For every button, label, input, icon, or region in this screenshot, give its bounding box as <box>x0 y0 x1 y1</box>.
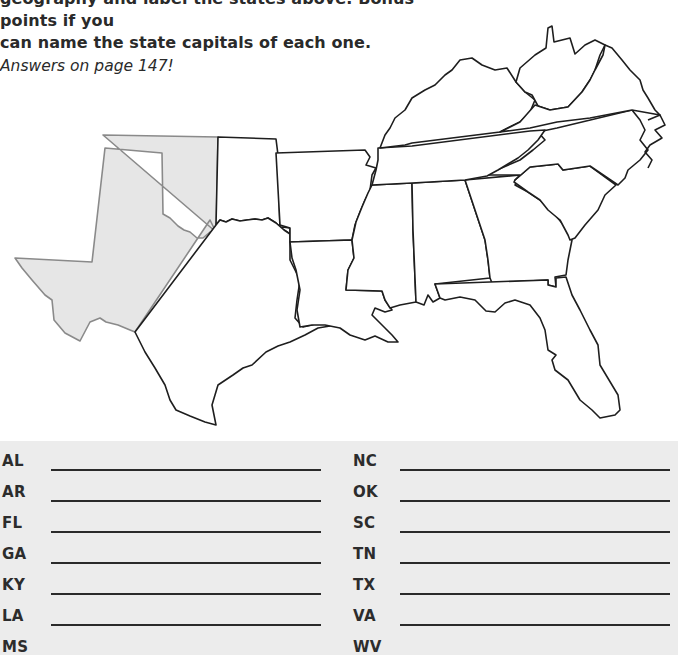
answer-row-tn: TN <box>353 534 678 565</box>
state-abbr-label: KY <box>2 576 25 594</box>
answer-row-ms: MS <box>0 627 330 655</box>
answer-sheet: AL AR FL GA KY LA MS NC <box>0 441 678 655</box>
state-abbr-label: SC <box>353 514 375 532</box>
answer-row-tx: TX <box>353 565 678 596</box>
answer-row-al: AL <box>0 441 330 472</box>
answer-row-wv: WV <box>353 627 678 655</box>
instructions: geography and label the states above. Bo… <box>0 0 460 54</box>
answer-row-la: LA <box>0 596 330 627</box>
answer-blank-sc[interactable] <box>400 531 670 533</box>
answer-blank-ga[interactable] <box>51 562 321 564</box>
answer-row-ok: OK <box>353 472 678 503</box>
state-abbr-label: TN <box>353 545 376 563</box>
answer-row-ky: KY <box>0 565 330 596</box>
state-abbr-label: VA <box>353 607 376 625</box>
answer-blank-ky[interactable] <box>51 593 321 595</box>
answers-note: Answers on page 147! <box>0 57 174 75</box>
state-abbr-label: LA <box>2 607 24 625</box>
answer-blank-ok[interactable] <box>400 500 670 502</box>
answer-blank-fl[interactable] <box>51 531 321 533</box>
state-abbr-label: OK <box>353 483 378 501</box>
state-abbr-label: NC <box>353 452 377 470</box>
state-abbr-label: GA <box>2 545 27 563</box>
instructions-line-1: geography and label the states above. Bo… <box>0 0 460 32</box>
answer-row-fl: FL <box>0 503 330 534</box>
state-abbr-label: MS <box>2 638 28 655</box>
state-abbr-label: FL <box>2 514 22 532</box>
answer-blank-va[interactable] <box>400 624 670 626</box>
answer-blank-tn[interactable] <box>400 562 670 564</box>
state-abbr-label: TX <box>353 576 375 594</box>
nc-coast-detail <box>645 115 665 168</box>
answer-row-ga: GA <box>0 534 330 565</box>
answer-row-nc: NC <box>353 441 678 472</box>
state-florida <box>435 277 620 418</box>
answer-row-ar: AR <box>0 472 330 503</box>
answer-blank-al[interactable] <box>51 469 321 471</box>
answer-row-sc: SC <box>353 503 678 534</box>
state-abbr-label: AR <box>2 483 26 501</box>
answer-blank-tx[interactable] <box>400 593 670 595</box>
instructions-line-2: can name the state capitals of each one. <box>0 32 460 54</box>
answer-row-va: VA <box>353 596 678 627</box>
answer-blank-la[interactable] <box>51 624 321 626</box>
answer-blank-nc[interactable] <box>400 469 670 471</box>
answer-blank-ar[interactable] <box>51 500 321 502</box>
state-abbr-label: AL <box>2 452 24 470</box>
state-abbr-label: WV <box>353 638 382 655</box>
